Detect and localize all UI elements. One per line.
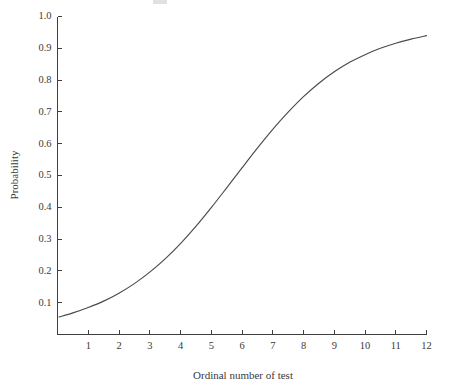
y-tick-label-group: 0.10.20.30.40.50.60.70.80.91.0 <box>38 10 52 307</box>
y-tick-label: 1.0 <box>38 10 51 21</box>
y-tick-label: 0.3 <box>38 233 51 244</box>
x-tick-label: 6 <box>239 340 244 351</box>
y-tick-label: 0.7 <box>38 106 51 117</box>
chart-figure: 0.10.20.30.40.50.60.70.80.91.0 123456789… <box>0 0 449 387</box>
x-tick-group <box>88 330 426 335</box>
x-tick-label: 11 <box>391 340 401 351</box>
x-tick-label: 9 <box>332 340 337 351</box>
y-tick-label: 0.5 <box>38 169 51 180</box>
series-line-probability <box>59 36 426 317</box>
x-tick-label: 10 <box>360 340 371 351</box>
y-axis-title: Probability <box>8 150 20 199</box>
x-tick-label: 5 <box>209 340 214 351</box>
y-tick-group <box>58 17 63 303</box>
x-axis-title: Ordinal number of test <box>193 369 293 381</box>
x-tick-label-group: 123456789101112 <box>86 340 432 351</box>
x-tick-label: 4 <box>178 340 184 351</box>
x-tick-label: 12 <box>421 340 432 351</box>
x-tick-label: 2 <box>116 340 121 351</box>
y-tick-label: 0.6 <box>38 138 51 149</box>
y-tick-label: 0.9 <box>38 42 51 53</box>
x-tick-label: 3 <box>147 340 152 351</box>
y-tick-label: 0.1 <box>38 297 51 308</box>
x-tick-label: 7 <box>270 340 275 351</box>
y-axis: 0.10.20.30.40.50.60.70.80.91.0 <box>38 10 62 334</box>
data-series-group <box>59 36 426 317</box>
y-tick-label: 0.4 <box>38 201 52 212</box>
y-tick-label: 0.8 <box>38 74 51 85</box>
x-tick-label: 8 <box>301 340 306 351</box>
chart-canvas: 0.10.20.30.40.50.60.70.80.91.0 123456789… <box>0 0 449 387</box>
y-tick-label: 0.2 <box>38 265 51 276</box>
x-axis: 123456789101112 <box>58 330 432 351</box>
x-tick-label: 1 <box>86 340 91 351</box>
